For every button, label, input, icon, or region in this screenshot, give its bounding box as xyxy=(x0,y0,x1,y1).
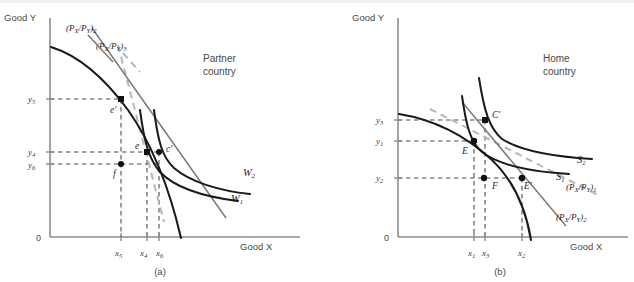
panel-a-ylabel-y6: y6 xyxy=(27,160,36,171)
panel-b-price-label-2: (PX/PY)2 xyxy=(556,212,587,223)
panel-b-price-line-2 xyxy=(462,102,566,226)
panel-b-indifference-S1 xyxy=(462,96,569,174)
panel-b-price-label-1: (PX/PY)1 xyxy=(566,182,597,193)
panel-b-ticks xyxy=(394,120,522,241)
panel-b-point-label-E-prime: E' xyxy=(523,181,533,191)
panel-b-point-label-F: F xyxy=(491,181,498,191)
panel-b-ylabel-y1: y1 xyxy=(375,136,383,147)
point-F-marker xyxy=(481,175,487,181)
panel-a-price-label-2: (PX/PY)2 xyxy=(66,23,97,34)
panel-b-xlabel-x3: x3 xyxy=(481,248,490,259)
axis-label-good-y-a: Good Y xyxy=(4,12,37,23)
panel-b-guides xyxy=(398,120,522,237)
point-C-prime-marker xyxy=(482,117,488,123)
panel-a-xlabel-x6: x6 xyxy=(155,248,164,259)
panel-b-ylabel-y2: y2 xyxy=(375,173,384,184)
panel-b-point-label-E: E xyxy=(461,146,468,156)
point-c-prime-marker xyxy=(156,149,162,155)
panel-a-point-label-c-prime: c' xyxy=(166,144,173,154)
panel-a-xlabel-x5: x5 xyxy=(114,248,123,259)
panel-b-ylabel-y3: y3 xyxy=(375,115,384,126)
axis-label-good-x-b: Good X xyxy=(570,241,603,252)
panel-a-leader-3 xyxy=(123,53,140,72)
panel-a-country-line2: country xyxy=(203,66,236,77)
axis-label-good-y-b: Good Y xyxy=(352,12,385,23)
panel-a-point-label-f: f xyxy=(113,169,117,179)
economics-figure: Good Y Good X 0 Partner country (PX/PY)2… xyxy=(0,0,634,282)
panel-a-ylabel-y5: y5 xyxy=(27,94,36,105)
origin-label-b: 0 xyxy=(384,233,389,243)
panel-b-point-label-C-prime: C' xyxy=(492,110,501,120)
panel-b-xlabel-x1: x1 xyxy=(467,248,475,259)
panel-b-axes xyxy=(398,18,628,237)
panel-a-svg: Good Y Good X 0 Partner country (PX/PY)2… xyxy=(0,0,634,282)
panel-a-axes xyxy=(50,18,300,237)
panel-a-country-line1: Partner xyxy=(203,53,236,64)
panel-a-ylabel-y4: y4 xyxy=(27,147,36,158)
point-e-prime-marker xyxy=(118,96,124,102)
panel-a-xlabel-x4: x4 xyxy=(139,248,148,259)
panel-a-caption: (a) xyxy=(154,266,166,277)
panel-b-curve-label-S2: S2 xyxy=(577,154,586,166)
panel-b-caption: (b) xyxy=(494,266,506,277)
axis-label-good-x-a: Good X xyxy=(240,241,273,252)
panel-a-point-label-e-prime: e' xyxy=(110,105,117,115)
panel-a-point-label-e: e xyxy=(135,141,139,151)
panel-b-country-line2: country xyxy=(543,66,576,77)
panel-a-curve-label-W1: W1 xyxy=(231,193,243,205)
panel-b-xlabel-x2: x2 xyxy=(517,248,526,259)
panel-a-price-label-3: (PX/PY)3 xyxy=(96,41,127,52)
panel-b-country-line1: Home xyxy=(543,53,570,64)
point-f-marker xyxy=(118,161,124,167)
point-E-marker xyxy=(471,138,477,144)
point-e-marker xyxy=(144,149,150,155)
panel-b-ppf xyxy=(399,114,531,240)
panel-a-guides xyxy=(50,99,159,237)
origin-label-a: 0 xyxy=(36,233,41,243)
panel-a-curve-label-W2: W2 xyxy=(243,167,256,179)
